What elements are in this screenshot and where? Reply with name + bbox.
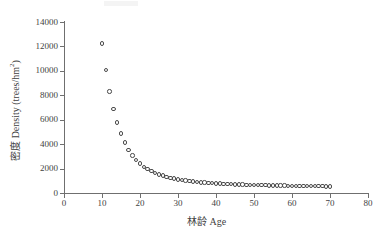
x-tick-label: 70 [315,199,345,208]
x-tick-label: 20 [125,199,155,208]
y-tick-label: 4000 [40,140,58,149]
y-tick-label: 14000 [36,18,59,27]
page-artifact-smudge [104,1,138,6]
y-tick-label: 12000 [36,42,59,51]
y-tick-label: 6000 [40,115,58,124]
y-tick-label: 8000 [40,91,58,100]
x-tick-label: 0 [49,199,79,208]
y-tick-label: 0 [54,189,59,198]
data-point-marker [100,41,104,45]
y-tick-label: 2000 [40,164,58,173]
y-axis-title-text: 密度 Density (trees/hm [10,67,21,161]
plot-area [64,22,368,193]
data-point-marker [123,140,127,144]
x-tick-label: 30 [163,199,193,208]
y-axis-title-superscript: 2 [8,63,16,67]
data-point-marker [107,89,111,93]
y-axis-title-tail: ) [10,60,21,63]
x-tick-label: 50 [239,199,269,208]
data-point-marker [111,107,115,111]
x-tick-label: 40 [201,199,231,208]
y-axis-title: 密度 Density (trees/hm2) [10,26,21,196]
data-point-marker [119,131,123,135]
data-point-marker [328,184,332,188]
scatter-chart: 02000400060008000100001200014000 0102030… [0,0,383,241]
data-point-marker [104,68,108,72]
data-point-marker [126,148,130,152]
data-point-marker [130,153,134,157]
x-axis-title: 林龄 Age [0,216,383,227]
data-point-marker [115,120,119,124]
y-tick-label: 10000 [36,66,59,75]
x-tick-label: 10 [87,199,117,208]
x-tick-label: 80 [353,199,383,208]
x-tick-label: 60 [277,199,307,208]
